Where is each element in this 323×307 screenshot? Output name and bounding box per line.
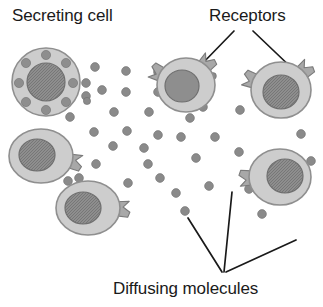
secretory-vesicle-4	[41, 105, 50, 114]
diffusing-molecule-32	[181, 207, 190, 216]
cell-target-cell-mid-left	[9, 129, 84, 183]
diffusing-molecule-20	[297, 130, 306, 139]
diffusing-molecule-21	[109, 142, 118, 151]
molecules-leader-left	[188, 218, 222, 272]
cell-secreting-cell	[12, 48, 80, 116]
diffusing-molecule-30	[205, 182, 214, 191]
secretory-vesicle-7	[21, 58, 30, 67]
diffusing-molecule-9	[66, 113, 75, 122]
molecules-leader-mid	[224, 192, 232, 272]
diffusing-molecule-11	[145, 108, 154, 117]
secretory-vesicle-0	[41, 50, 50, 59]
cell-signaling-diagram	[0, 0, 323, 307]
diffusing-molecule-0	[91, 63, 100, 72]
secretory-vesicle-2	[68, 78, 77, 87]
cell-target-cell-top-middle	[147, 52, 218, 112]
secretory-vesicle-1	[61, 58, 70, 67]
diffusing-molecule-15	[90, 128, 99, 137]
diffusing-molecule-19	[211, 133, 220, 142]
diffusing-molecule-26	[192, 154, 201, 163]
secretory-vesicle-6	[14, 78, 23, 87]
diffusing-molecule-7	[122, 88, 131, 97]
label-receptors: Receptors	[209, 6, 286, 26]
diffusing-molecule-12	[186, 114, 195, 123]
diffusing-molecule-3	[82, 79, 91, 88]
diffusing-molecule-1	[122, 67, 131, 76]
cell-target-cell-top-right	[241, 59, 316, 118]
diffusing-molecule-25	[156, 174, 165, 183]
nucleus	[267, 159, 303, 193]
diffusing-molecule-28	[124, 179, 133, 188]
diffusing-molecule-34	[64, 177, 73, 186]
label-diffusing-molecules: Diffusing molecules	[113, 279, 258, 299]
cell-layer	[9, 48, 316, 235]
secretory-vesicle-5	[21, 97, 30, 106]
diffusing-molecule-10	[110, 108, 119, 117]
cell-target-cell-bottom-right	[239, 149, 311, 205]
cell-target-cell-bottom-left	[56, 181, 130, 235]
diffusing-molecule-18	[177, 133, 186, 142]
diffusing-molecule-29	[172, 189, 181, 198]
nucleus	[27, 63, 65, 101]
molecules-leader-right	[226, 240, 296, 272]
secretory-vesicle-3	[61, 97, 70, 106]
diffusing-molecule-27	[235, 148, 244, 157]
diffusing-molecule-17	[154, 131, 163, 140]
nucleus	[65, 192, 101, 224]
diffusing-molecule-6	[83, 97, 90, 104]
diffusing-molecule-22	[140, 144, 149, 153]
nucleus	[165, 70, 199, 102]
diagram-canvas: Secreting cell Receptors Diffusing molec…	[0, 0, 323, 307]
diffusing-molecule-33	[258, 210, 267, 219]
nucleus	[19, 139, 55, 171]
diffusing-molecule-24	[144, 160, 153, 169]
diffusing-molecule-16	[123, 127, 132, 136]
nucleus	[263, 75, 299, 109]
diffusing-molecule-4	[98, 86, 107, 95]
diffusing-molecule-23	[92, 160, 101, 169]
label-secreting-cell: Secreting cell	[12, 6, 113, 26]
diffusing-molecule-14	[236, 106, 245, 115]
